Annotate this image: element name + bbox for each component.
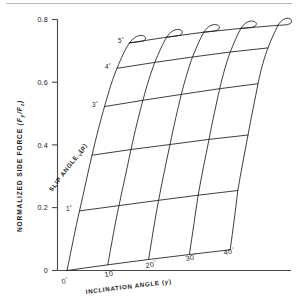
y-tick-label-0.4: 0.4 (37, 141, 48, 150)
inclination-curve-40deg (230, 18, 291, 250)
x-tick-label-20: 20° (145, 259, 157, 270)
y-tick-label-0.6: 0.6 (37, 78, 48, 87)
svg-text:5°: 5° (118, 37, 124, 44)
y-tick-label-0: 0 (44, 266, 48, 275)
x-tick-label-40: 40° (223, 246, 235, 257)
slip-curve-label-4deg: 4° (105, 63, 111, 70)
svg-text:4°: 4° (105, 63, 111, 70)
slip-line-5deg (130, 25, 279, 43)
x-axis-title: INCLINATION ANGLE (γ) (85, 277, 172, 294)
slip-angle-lines (67, 25, 278, 270)
svg-text:1°: 1° (66, 205, 72, 212)
inclination-curve-10deg (108, 29, 183, 264)
slip-curve-label-3deg: 3° (92, 101, 98, 108)
y-axis-title-paren-close: ) (16, 100, 24, 104)
svg-text:2°: 2° (79, 150, 85, 157)
y-tick-label-0.8: 0.8 (37, 15, 48, 24)
x-axis-title-paren-close: ) (168, 277, 172, 284)
slip-angle-label-text: SLIP ANGLE (47, 153, 79, 192)
x-axis-title-main: INCLINATION ANGLE (85, 279, 160, 295)
plot-svg: 0.8 0.6 0.4 0.2 0 NORMALIZED SIDE FORCE … (0, 0, 297, 305)
x-tick-label-0: 0° (61, 276, 69, 286)
svg-text:40°: 40° (223, 246, 235, 257)
y-axis-title-main: NORMALIZED SIDE FORCE (16, 128, 23, 232)
carpet-plot-figure: 0.8 0.6 0.4 0.2 0 NORMALIZED SIDE FORCE … (0, 0, 297, 305)
svg-text:NORMALIZED SIDE FORCE (Fy/Fz): NORMALIZED SIDE FORCE (Fy/Fz) (16, 100, 25, 232)
svg-text:20°: 20° (145, 259, 157, 270)
svg-text:3°: 3° (92, 101, 98, 108)
y-axis-title: NORMALIZED SIDE FORCE (Fy/Fz) (16, 100, 25, 232)
svg-text:INCLINATION ANGLE (γ): INCLINATION ANGLE (γ) (85, 277, 172, 294)
x-tick-label-10: 10° (104, 268, 116, 279)
svg-text:10°: 10° (104, 268, 116, 279)
slip-curve-label-2deg: 2° (79, 150, 85, 157)
y-axis (52, 20, 58, 271)
slip-curve-label-5deg: 5° (118, 37, 124, 44)
y-tick-label-0.2: 0.2 (37, 203, 48, 212)
inclination-curves (67, 18, 292, 270)
slip-curve-label-1deg: 1° (66, 205, 72, 212)
svg-text:0°: 0° (61, 276, 69, 286)
